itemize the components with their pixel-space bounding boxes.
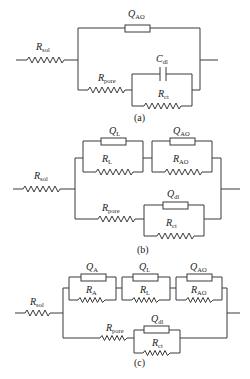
label-rct: Rct bbox=[165, 217, 177, 229]
circuit-a: Rsol QAO Rpore Cdl Rct (a) bbox=[16, 8, 218, 124]
label-cdl: Cdl bbox=[156, 53, 168, 65]
resistor-rct-icon bbox=[132, 103, 192, 109]
cpe-qdl-icon bbox=[144, 326, 169, 333]
resistor-rpore-icon bbox=[63, 336, 134, 341]
capacitor-cdl-icon bbox=[160, 67, 166, 81]
caption-b: (b) bbox=[137, 244, 149, 256]
resistor-rpore-icon bbox=[78, 87, 132, 93]
resistor-rct-icon bbox=[134, 351, 180, 356]
resistor-ra-icon bbox=[69, 298, 116, 303]
equivalent-circuit-figure: Rsol QAO Rpore Cdl Rct (a) bbox=[0, 0, 250, 379]
label-qao: QAO bbox=[128, 8, 145, 20]
label-rct: Rct bbox=[157, 88, 169, 100]
resistor-rpore-icon bbox=[75, 216, 144, 222]
resistor-rao-icon bbox=[152, 169, 212, 175]
label-rsol: Rsol bbox=[33, 170, 48, 182]
resistor-rsol-icon bbox=[15, 310, 63, 316]
label-rsol: Rsol bbox=[29, 296, 44, 308]
cpe-qao-icon bbox=[125, 25, 150, 32]
cpe-qa-icon bbox=[81, 274, 106, 281]
label-rpore: Rpore bbox=[97, 72, 116, 84]
label-rsol: Rsol bbox=[35, 41, 50, 53]
resistor-rsol-icon bbox=[13, 186, 75, 192]
resistor-rl-icon bbox=[83, 169, 143, 175]
cpe-qdl-icon bbox=[163, 202, 188, 209]
label-ra: RA bbox=[85, 284, 97, 296]
cpe-ql-icon bbox=[133, 274, 158, 281]
resistor-rct-icon bbox=[144, 233, 204, 239]
label-rl: RL bbox=[101, 153, 112, 165]
cpe-ql-icon bbox=[101, 138, 126, 145]
resistor-rao-icon bbox=[176, 298, 222, 303]
resistor-rl-icon bbox=[122, 298, 170, 303]
label-ql: QL bbox=[109, 125, 120, 137]
label-ql: QL bbox=[139, 261, 150, 273]
circuit-b: Rsol QL RL QAO RAO Rpore bbox=[13, 125, 240, 256]
caption-c: (c) bbox=[134, 357, 145, 369]
label-qao: QAO bbox=[190, 261, 207, 273]
label-qdl: Qdl bbox=[167, 188, 179, 200]
circuit-c: Rsol QA RA QL RL QAO RAO bbox=[15, 261, 240, 369]
label-rpore: Rpore bbox=[101, 202, 120, 214]
label-rct: Rct bbox=[151, 337, 163, 349]
caption-a: (a) bbox=[134, 112, 145, 124]
label-rpore: Rpore bbox=[105, 322, 124, 334]
label-rao: RAO bbox=[172, 153, 189, 165]
label-qdl: Qdl bbox=[151, 313, 163, 325]
label-qa: QA bbox=[86, 261, 98, 273]
label-rao: RAO bbox=[190, 284, 207, 296]
label-qao: QAO bbox=[173, 125, 190, 137]
label-rl: RL bbox=[139, 284, 150, 296]
cpe-qao-icon bbox=[170, 138, 195, 145]
cpe-qao-icon bbox=[187, 274, 212, 281]
resistor-rsol-icon bbox=[16, 57, 78, 63]
